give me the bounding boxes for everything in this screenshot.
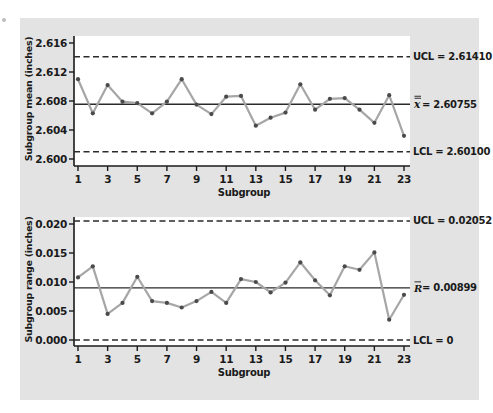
center-label: = 2.60755 bbox=[422, 99, 477, 110]
x-tick-label: 17 bbox=[308, 353, 322, 365]
data-point bbox=[165, 301, 169, 305]
ucl-label: UCL = 2.61410 bbox=[413, 51, 492, 62]
data-point bbox=[313, 108, 317, 112]
data-point bbox=[150, 299, 154, 303]
x-tick-label: 9 bbox=[193, 173, 200, 185]
x-tick-label: 23 bbox=[397, 173, 411, 185]
x-axis-title: Subgroup bbox=[218, 367, 270, 378]
y-tick-label: 2.600 bbox=[35, 153, 67, 165]
control-charts: 2.6002.6042.6082.6122.616135791113151719… bbox=[0, 0, 493, 413]
data-point bbox=[135, 101, 139, 105]
data-point bbox=[194, 299, 198, 303]
data-point bbox=[372, 250, 376, 254]
data-point bbox=[269, 116, 273, 120]
data-point bbox=[239, 277, 243, 281]
data-point bbox=[328, 293, 332, 297]
data-point bbox=[283, 111, 287, 115]
x-tick-label: 15 bbox=[278, 353, 292, 365]
plot-area bbox=[74, 217, 410, 346]
data-point bbox=[165, 100, 169, 104]
x-tick-label: 1 bbox=[74, 353, 81, 365]
data-point bbox=[106, 83, 110, 87]
y-tick-label: 2.612 bbox=[35, 66, 67, 78]
x-tick-label: 21 bbox=[367, 353, 381, 365]
data-point bbox=[357, 268, 361, 272]
data-point bbox=[150, 111, 154, 115]
data-point bbox=[224, 95, 228, 99]
data-point bbox=[313, 278, 317, 282]
data-point bbox=[180, 77, 184, 81]
data-point bbox=[209, 290, 213, 294]
data-point bbox=[254, 124, 258, 128]
data-point bbox=[402, 134, 406, 138]
data-point bbox=[180, 305, 184, 309]
data-point bbox=[328, 97, 332, 101]
x-tick-label: 3 bbox=[104, 173, 111, 185]
center-symbol: x bbox=[413, 98, 421, 110]
data-point bbox=[298, 260, 302, 264]
x-tick-label: 19 bbox=[338, 173, 352, 185]
x-tick-label: 11 bbox=[219, 173, 233, 185]
data-point bbox=[209, 112, 213, 116]
y-tick-label: 0.015 bbox=[35, 247, 67, 259]
data-point bbox=[76, 275, 80, 279]
data-point bbox=[91, 264, 95, 268]
data-point bbox=[357, 108, 361, 112]
x-tick-label: 13 bbox=[249, 173, 263, 185]
data-point bbox=[343, 264, 347, 268]
x-tick-label: 5 bbox=[134, 173, 141, 185]
y-tick-label: 2.616 bbox=[35, 37, 67, 49]
data-point bbox=[387, 93, 391, 97]
data-point bbox=[343, 96, 347, 100]
x-tick-label: 13 bbox=[249, 353, 263, 365]
y-tick-label: 0.000 bbox=[35, 334, 67, 346]
y-tick-label: 0.005 bbox=[35, 305, 67, 317]
x-tick-label: 9 bbox=[193, 353, 200, 365]
data-point bbox=[106, 312, 110, 316]
data-point bbox=[120, 100, 124, 104]
x-tick-label: 11 bbox=[219, 353, 233, 365]
ucl-label: UCL = 0.02052 bbox=[413, 215, 492, 226]
y-tick-label: 0.010 bbox=[35, 276, 67, 288]
x-tick-label: 21 bbox=[367, 173, 381, 185]
x-tick-label: 5 bbox=[134, 353, 141, 365]
lcl-label: LCL = 2.60100 bbox=[413, 146, 490, 157]
data-point bbox=[239, 94, 243, 98]
center-symbol: R bbox=[413, 283, 422, 294]
data-point bbox=[76, 77, 80, 81]
data-point bbox=[402, 293, 406, 297]
x-tick-label: 7 bbox=[163, 173, 170, 185]
x-tick-label: 23 bbox=[397, 353, 411, 365]
data-point bbox=[254, 280, 258, 284]
x-tick-label: 1 bbox=[74, 173, 81, 185]
data-point bbox=[135, 275, 139, 279]
x-tick-label: 15 bbox=[278, 173, 292, 185]
data-point bbox=[372, 121, 376, 125]
data-point bbox=[224, 301, 228, 305]
data-point bbox=[194, 103, 198, 107]
data-point bbox=[91, 111, 95, 115]
lcl-label: LCL = 0 bbox=[413, 335, 454, 346]
data-point bbox=[120, 301, 124, 305]
x-tick-label: 7 bbox=[163, 353, 170, 365]
data-point bbox=[387, 318, 391, 322]
y-axis-title: Subgroup range (inches) bbox=[23, 217, 34, 343]
data-point bbox=[283, 281, 287, 285]
data-point bbox=[269, 290, 273, 294]
x-tick-label: 19 bbox=[338, 353, 352, 365]
x-tick-label: 17 bbox=[308, 173, 322, 185]
x-axis-title: Subgroup bbox=[218, 187, 270, 198]
y-axis-title: Subgroup mean (inches) bbox=[23, 37, 34, 162]
y-tick-label: 2.604 bbox=[35, 124, 67, 136]
y-tick-label: 2.608 bbox=[35, 95, 67, 107]
x-tick-label: 3 bbox=[104, 353, 111, 365]
data-point bbox=[298, 82, 302, 86]
y-tick-label: 0.020 bbox=[35, 218, 67, 230]
center-label: = 0.00899 bbox=[422, 282, 477, 293]
